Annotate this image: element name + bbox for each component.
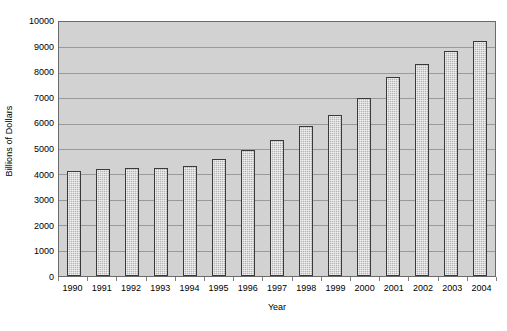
y-axis-tick-label: 0 — [49, 272, 54, 282]
y-axis-tick-label: 5000 — [34, 144, 54, 154]
x-axis-tick-label: 2002 — [408, 283, 437, 299]
x-axis-tick-label: 2003 — [438, 283, 467, 299]
x-axis-tick-label: 2001 — [379, 283, 408, 299]
x-axis-tick — [292, 277, 293, 281]
bars-group — [59, 22, 495, 276]
y-axis-tick-labels: 0100020003000400050006000700080009000100… — [18, 21, 58, 277]
x-axis-tick — [58, 277, 59, 281]
x-axis-tick — [408, 277, 409, 281]
bar[interactable] — [328, 115, 342, 276]
bar[interactable] — [270, 140, 284, 276]
x-axis-tick-label: 2004 — [467, 283, 496, 299]
x-axis-tick-label: 1991 — [87, 283, 116, 299]
bar-slot — [292, 22, 321, 276]
bar[interactable] — [154, 168, 168, 276]
bar-slot — [437, 22, 466, 276]
bar-slot — [59, 22, 88, 276]
bar[interactable] — [473, 41, 487, 276]
bar-slot — [379, 22, 408, 276]
x-axis-tick — [496, 277, 497, 281]
x-axis-tick — [321, 277, 322, 281]
bar[interactable] — [96, 169, 110, 276]
x-axis-tick-label: 1998 — [292, 283, 321, 299]
y-axis-tick-label: 6000 — [34, 118, 54, 128]
bar-slot — [146, 22, 175, 276]
bar[interactable] — [125, 168, 139, 276]
x-axis-tick — [379, 277, 380, 281]
bar-chart: Billions of Dollars 01000200030004000500… — [0, 0, 507, 331]
x-axis-tick — [262, 277, 263, 281]
bar[interactable] — [212, 159, 226, 276]
x-axis-tick-label: 1994 — [175, 283, 204, 299]
x-axis-tick — [146, 277, 147, 281]
x-axis-tick-labels: 1990199119921993199419951996199719981999… — [58, 283, 496, 299]
bar[interactable] — [386, 77, 400, 276]
plot-area — [58, 21, 496, 277]
bar-slot — [204, 22, 233, 276]
bar-slot — [466, 22, 495, 276]
bar-slot — [408, 22, 437, 276]
x-axis-tick-label: 1993 — [146, 283, 175, 299]
bar-slot — [262, 22, 291, 276]
bar[interactable] — [241, 150, 255, 276]
y-axis-tick-label: 3000 — [34, 195, 54, 205]
x-axis-tick-label: 1992 — [116, 283, 145, 299]
x-axis-tick — [204, 277, 205, 281]
bar[interactable] — [183, 166, 197, 276]
bar[interactable] — [444, 51, 458, 276]
x-axis-title: Year — [58, 302, 496, 312]
bar-slot — [117, 22, 146, 276]
x-axis-tick-label: 1996 — [233, 283, 262, 299]
y-axis-title: Billions of Dollars — [0, 0, 18, 281]
y-axis-tick-label: 1000 — [34, 246, 54, 256]
y-axis-tick-label: 7000 — [34, 93, 54, 103]
x-axis-tick — [233, 277, 234, 281]
x-axis-tick-marks — [58, 277, 496, 281]
y-axis-tick-label: 4000 — [34, 170, 54, 180]
x-axis-tick-label: 2000 — [350, 283, 379, 299]
bar-slot — [233, 22, 262, 276]
y-axis-tick-label: 10000 — [29, 16, 54, 26]
bar-slot — [350, 22, 379, 276]
x-axis-tick-label: 1995 — [204, 283, 233, 299]
x-axis-tick — [438, 277, 439, 281]
x-axis-tick-label: 1990 — [58, 283, 87, 299]
x-axis-tick — [116, 277, 117, 281]
x-axis-tick — [350, 277, 351, 281]
x-axis-tick — [87, 277, 88, 281]
bar-slot — [88, 22, 117, 276]
y-axis-tick-label: 8000 — [34, 67, 54, 77]
bar[interactable] — [415, 64, 429, 276]
bar[interactable] — [67, 171, 81, 276]
bar-slot — [175, 22, 204, 276]
x-axis-tick-label: 1999 — [321, 283, 350, 299]
x-axis-tick — [175, 277, 176, 281]
x-axis-tick — [467, 277, 468, 281]
y-axis-title-label: Billions of Dollars — [4, 105, 14, 176]
y-axis-tick-label: 9000 — [34, 42, 54, 52]
x-axis-tick-label: 1997 — [262, 283, 291, 299]
y-axis-tick-label: 2000 — [34, 221, 54, 231]
bar[interactable] — [357, 98, 371, 276]
bar[interactable] — [299, 126, 313, 276]
bar-slot — [321, 22, 350, 276]
